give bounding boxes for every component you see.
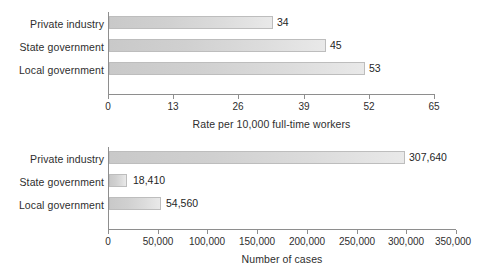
xtick-label-0: 0	[105, 236, 111, 247]
bar-local-government	[109, 197, 161, 210]
category-label-local-government: Local government	[0, 64, 104, 76]
bar-value-local-government: 54,560	[166, 197, 198, 209]
bar-value-state-government: 45	[330, 39, 342, 51]
bar-private-industry	[109, 16, 273, 29]
xtick-mark-0	[108, 95, 109, 99]
xtick-mark-200000	[307, 230, 308, 234]
bar-state-government	[109, 174, 127, 187]
cases-chart-x-axis-title: Number of cases	[108, 253, 456, 265]
xtick-label-39: 39	[298, 101, 309, 112]
xtick-label-150000: 150,000	[239, 236, 275, 247]
bar-value-state-government: 18,410	[133, 174, 165, 186]
bar-state-government	[109, 39, 326, 52]
xtick-mark-300000	[406, 230, 407, 234]
xtick-mark-65	[434, 95, 435, 99]
xtick-label-350000: 350,000	[435, 236, 471, 247]
xtick-label-100000: 100,000	[189, 236, 225, 247]
xtick-label-200000: 200,000	[289, 236, 325, 247]
xtick-mark-39	[304, 95, 305, 99]
xtick-label-13: 13	[167, 101, 178, 112]
xtick-mark-13	[173, 95, 174, 99]
xtick-mark-0	[108, 230, 109, 234]
bar-value-local-government: 53	[369, 62, 381, 74]
xtick-label-52: 52	[363, 101, 374, 112]
xtick-mark-100000	[207, 230, 208, 234]
bar-value-private-industry: 34	[277, 16, 289, 28]
xtick-mark-250000	[357, 230, 358, 234]
rate-chart-x-axis-title: Rate per 10,000 full-time workers	[108, 118, 435, 130]
xtick-label-65: 65	[428, 101, 439, 112]
xtick-mark-350000	[456, 230, 457, 234]
rate-chart-x-axis	[108, 94, 435, 95]
cases-chart-plot-area: Private industry State government Local …	[0, 135, 482, 267]
rate-per-10000-bar-chart: Private industry State government Local …	[0, 0, 482, 135]
category-label-local-government: Local government	[0, 199, 104, 211]
category-label-private-industry: Private industry	[0, 18, 104, 30]
xtick-mark-50000	[158, 230, 159, 234]
xtick-label-50000: 50,000	[143, 236, 174, 247]
xtick-mark-52	[369, 95, 370, 99]
category-label-state-government: State government	[0, 176, 104, 188]
xtick-mark-26	[238, 95, 239, 99]
xtick-label-300000: 300,000	[388, 236, 424, 247]
category-label-state-government: State government	[0, 41, 104, 53]
rate-chart-plot-area: Private industry State government Local …	[0, 0, 482, 135]
xtick-label-250000: 250,000	[339, 236, 375, 247]
number-of-cases-bar-chart: Private industry State government Local …	[0, 135, 482, 267]
bar-private-industry	[109, 151, 405, 164]
xtick-label-26: 26	[232, 101, 243, 112]
category-label-private-industry: Private industry	[0, 153, 104, 165]
xtick-label-0: 0	[105, 101, 111, 112]
xtick-mark-150000	[257, 230, 258, 234]
bar-value-private-industry: 307,640	[409, 151, 447, 163]
cases-chart-x-axis	[108, 229, 456, 230]
bar-local-government	[109, 62, 365, 75]
